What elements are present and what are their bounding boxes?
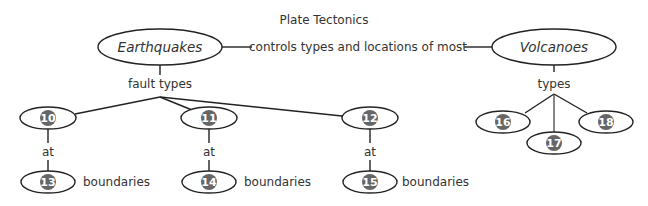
boundaries-label: boundaries [244, 175, 311, 189]
map-title: Plate Tectonics [280, 13, 369, 27]
blank-node-17: 17 [527, 132, 581, 154]
blank-node-12: 12 [342, 107, 398, 129]
connector-line [75, 97, 160, 114]
svg-text:14: 14 [201, 176, 217, 189]
boundaries-label: boundaries [83, 175, 150, 189]
blank-node-10: 10 [20, 107, 76, 129]
at-label: at [364, 145, 376, 159]
svg-text:17: 17 [546, 137, 561, 150]
boundaries-label: boundaries [402, 175, 469, 189]
fault-types-label: fault types [128, 77, 192, 91]
main-link-label: controls types and locations of most [249, 40, 467, 54]
connector-line [525, 94, 554, 113]
svg-text:10: 10 [40, 112, 56, 125]
svg-text:11: 11 [201, 112, 216, 125]
concept-map: Plate Tectonics controls types and locat… [0, 0, 648, 206]
earthquakes-label: Earthquakes [118, 39, 203, 55]
svg-text:13: 13 [40, 176, 55, 189]
blank-node-18: 18 [579, 111, 633, 133]
blank-node-14: 14 [182, 171, 236, 193]
blank-node-13: 13 [21, 171, 75, 193]
volcano-types-label: types [537, 77, 570, 91]
svg-text:15: 15 [362, 176, 377, 189]
blank-node-16: 16 [476, 111, 530, 133]
blank-node-15: 15 [343, 171, 397, 193]
svg-text:18: 18 [598, 116, 613, 129]
connector-line [554, 94, 587, 113]
at-label: at [42, 145, 54, 159]
volcanoes-label: Volcanoes [520, 39, 588, 55]
blank-node-11: 11 [181, 107, 237, 129]
svg-text:12: 12 [362, 112, 377, 125]
svg-text:16: 16 [495, 116, 511, 129]
at-label: at [203, 145, 215, 159]
